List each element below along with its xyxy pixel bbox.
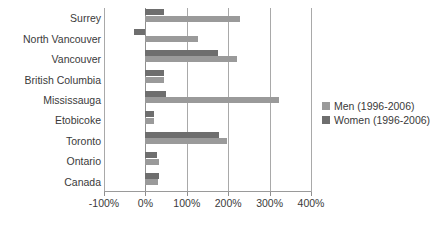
x-tick-label: 0% [122, 197, 168, 209]
category-label: Surrey [70, 9, 101, 27]
x-tick-100 [187, 192, 188, 196]
bar-men [145, 138, 226, 144]
bar-men [145, 159, 159, 165]
bar-men [145, 179, 157, 185]
category-label: North Vancouver [23, 30, 101, 48]
legend-swatch-icon [322, 102, 330, 110]
bar-women [134, 29, 146, 35]
x-tick-0 [145, 192, 146, 196]
bar-women [145, 91, 166, 97]
chart-legend: Men (1996-2006)Women (1996-2006) [322, 100, 434, 128]
bar-chart: SurreyNorth VancouverVancouverBritish Co… [0, 0, 435, 225]
category-label: Canada [64, 173, 101, 191]
plot-area [104, 8, 311, 192]
gridline-400 [311, 8, 312, 192]
bar-men [145, 97, 278, 103]
x-tick-label: 400% [288, 197, 334, 209]
bar-women [145, 50, 218, 56]
bar-women [145, 173, 158, 179]
legend-item[interactable]: Women (1996-2006) [322, 114, 434, 126]
bar-men [145, 56, 237, 62]
category-label: Ontario [67, 152, 101, 170]
legend-label: Women (1996-2006) [334, 114, 430, 126]
category-label: British Columbia [25, 71, 101, 89]
x-tick-300 [270, 192, 271, 196]
x-tick-label: -100% [81, 197, 127, 209]
category-label: Vancouver [52, 50, 101, 68]
legend-swatch-icon [322, 116, 330, 124]
category-label: Toronto [66, 132, 101, 150]
x-tick-label: 300% [247, 197, 293, 209]
legend-label: Men (1996-2006) [334, 100, 415, 112]
legend-item[interactable]: Men (1996-2006) [322, 100, 434, 112]
value-axis-line [104, 191, 311, 192]
x-tick--100 [104, 192, 105, 196]
category-label: Etobicoke [55, 111, 101, 129]
category-label: Mississauga [43, 91, 101, 109]
category-axis: SurreyNorth VancouverVancouverBritish Co… [0, 8, 104, 192]
x-tick-label: 200% [205, 197, 251, 209]
bar-women [145, 152, 157, 158]
bar-women [145, 132, 219, 138]
bar-men [145, 36, 197, 42]
bar-women [145, 111, 154, 117]
bar-men [145, 118, 153, 124]
bar-women [145, 9, 163, 15]
gridline--100 [104, 8, 105, 192]
bar-men [145, 77, 163, 83]
x-tick-400 [311, 192, 312, 196]
x-tick-label: 100% [164, 197, 210, 209]
bar-women [145, 70, 163, 76]
bar-men [145, 16, 239, 22]
x-tick-200 [228, 192, 229, 196]
